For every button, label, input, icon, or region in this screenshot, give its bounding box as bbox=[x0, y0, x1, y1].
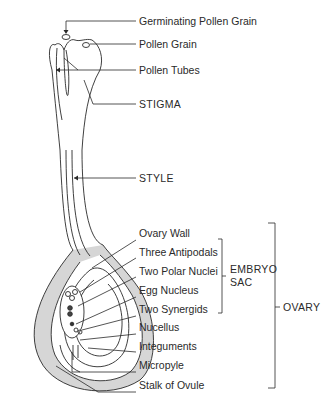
label-embryo-sac-line2: SAC bbox=[230, 276, 253, 288]
label-three-antipodals: Three Antipodals bbox=[139, 246, 218, 258]
label-integuments: Integuments bbox=[139, 340, 197, 352]
label-ovary: OVARY bbox=[283, 301, 320, 313]
germinating-pollen-grain-shape bbox=[62, 35, 70, 40]
label-pollen-grain: Pollen Grain bbox=[139, 38, 197, 50]
label-nucellus: Nucellus bbox=[139, 321, 179, 333]
pollen-grain-shape bbox=[83, 43, 90, 48]
label-ovary-wall: Ovary Wall bbox=[139, 227, 190, 239]
label-stalk-of-ovule: Stalk of Ovule bbox=[139, 379, 204, 391]
label-style: STYLE bbox=[139, 172, 174, 184]
stigma-shape bbox=[49, 39, 101, 150]
label-stigma: STIGMA bbox=[139, 98, 181, 110]
label-egg-nucleus: Egg Nucleus bbox=[139, 284, 199, 296]
label-embryo-sac-line1: EMBRYO bbox=[230, 263, 277, 275]
label-germinating-pollen-grain: Germinating Pollen Grain bbox=[139, 15, 257, 27]
label-micropyle: Micropyle bbox=[139, 359, 184, 371]
label-two-synergids: Two Synergids bbox=[139, 303, 208, 315]
label-pollen-tubes: Pollen Tubes bbox=[139, 64, 200, 76]
label-two-polar-nuclei: Two Polar Nuclei bbox=[139, 265, 218, 277]
